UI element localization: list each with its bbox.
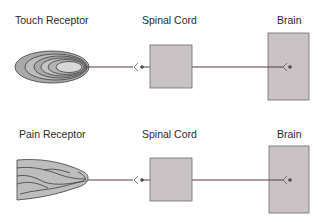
touch-receptor-icon (15, 51, 89, 83)
synapse-terminal-icon (134, 176, 138, 184)
spinal-cord-box-bottom (150, 158, 192, 201)
spinal-cord-box-top (150, 45, 192, 88)
nerve-pathway-diagram (0, 0, 323, 223)
synapse-dot-icon (288, 178, 292, 182)
pain-receptor-icon (17, 159, 88, 200)
synapse-dot-icon (288, 65, 292, 69)
synapse-terminal-icon (134, 63, 138, 71)
